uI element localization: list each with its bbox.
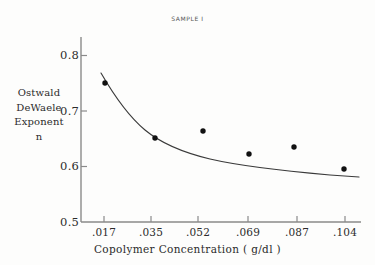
y-tick-label-2: 0.6 — [45, 159, 79, 173]
x-tick-label-1: .035 — [131, 226, 171, 238]
y-tick-marks — [81, 56, 87, 167]
data-point — [246, 151, 251, 156]
data-points — [102, 80, 346, 171]
x-tick-label-2: .052 — [178, 226, 218, 238]
data-point — [152, 135, 157, 140]
y-axis-title-line-2: Exponent — [2, 115, 76, 130]
x-tick-marks — [104, 216, 345, 222]
data-point — [341, 166, 346, 171]
y-tick-label-3: 0.5 — [45, 215, 79, 229]
y-tick-label-0: 0.8 — [45, 48, 79, 62]
data-point — [102, 80, 107, 85]
x-tick-label-5: .104 — [325, 226, 365, 238]
chart-figure: SAMPLE I — [0, 0, 375, 265]
y-axis-title-line-1: DeWaele — [2, 101, 76, 116]
x-tick-label-3: .069 — [228, 226, 268, 238]
y-axis-title: Ostwald DeWaele Exponent n — [2, 86, 76, 144]
x-tick-label-4: .087 — [277, 226, 317, 238]
y-axis-title-line-3: n — [2, 130, 76, 145]
y-axis-title-line-0: Ostwald — [2, 86, 76, 101]
x-tick-label-0: .017 — [84, 226, 124, 238]
data-point — [291, 144, 296, 149]
data-point — [200, 128, 205, 133]
fitted-curve — [101, 73, 359, 177]
x-axis-title: Copolymer Concentration ( g/dl ) — [0, 243, 375, 255]
